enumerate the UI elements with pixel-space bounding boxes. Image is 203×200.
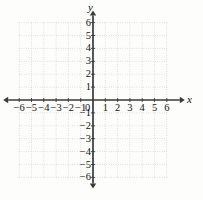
x-tick-label: 2 [115, 103, 120, 114]
x-tick-label: −4 [38, 103, 49, 114]
x-axis-label: x [187, 94, 192, 105]
x-tick-label: 6 [164, 103, 169, 114]
y-tick-label: 2 [79, 69, 91, 80]
y-tick-label: −3 [79, 133, 91, 144]
y-tick-label: 5 [79, 30, 91, 41]
coordinate-grid-svg [0, 0, 203, 200]
coordinate-plane: x y −6−5−4−3−2−1123456 654321−1−2−3−4−5−… [0, 0, 203, 200]
x-tick-label: 4 [140, 103, 145, 114]
x-axis-arrow-right [180, 97, 185, 103]
origin-label: 0 [85, 103, 90, 114]
y-axis-label: y [88, 2, 93, 13]
x-tick-label: −3 [51, 103, 62, 114]
x-axis-arrow-left [3, 97, 8, 103]
y-tick-label: 4 [79, 43, 91, 54]
y-tick-label: −4 [79, 146, 91, 157]
y-tick-label: 3 [79, 56, 91, 67]
x-tick-label: −2 [63, 103, 74, 114]
y-axis-arrow-down [90, 183, 96, 188]
x-tick-label: 5 [152, 103, 157, 114]
x-tick-label: 1 [103, 103, 108, 114]
y-tick-label: 1 [79, 82, 91, 93]
y-tick-label: −2 [79, 121, 91, 132]
y-tick-label: −5 [79, 159, 91, 170]
x-tick-label: −6 [14, 103, 25, 114]
axis-lines [3, 11, 185, 189]
y-tick-label: 6 [79, 17, 91, 28]
x-tick-label: 3 [127, 103, 132, 114]
y-tick-label: −6 [79, 172, 91, 183]
x-tick-label: −5 [26, 103, 37, 114]
